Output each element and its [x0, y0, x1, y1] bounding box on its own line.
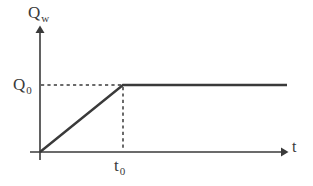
y-value-label-subscript: 0 — [26, 84, 32, 96]
figure-canvas: Qw Q0 t0 t — [0, 0, 313, 186]
plot-area — [0, 0, 313, 186]
x-value-label-subscript: 0 — [120, 165, 126, 177]
qw-curve — [40, 85, 287, 152]
x-axis-label: t — [292, 139, 296, 155]
y-value-label: Q0 — [13, 76, 31, 93]
x-axis-label-base: t — [292, 138, 296, 155]
x-axis — [30, 148, 289, 157]
x-value-label: t0 — [114, 157, 124, 174]
y-axis-label-subscript: w — [41, 12, 49, 24]
x-value-label-base: t — [114, 156, 119, 175]
x-axis-arrowhead — [281, 148, 289, 157]
y-axis — [36, 26, 45, 161]
y-value-label-base: Q — [13, 75, 25, 94]
y-axis-label-base: Q — [28, 3, 40, 22]
y-axis-arrowhead — [36, 26, 45, 34]
y-axis-label: Qw — [28, 4, 48, 21]
